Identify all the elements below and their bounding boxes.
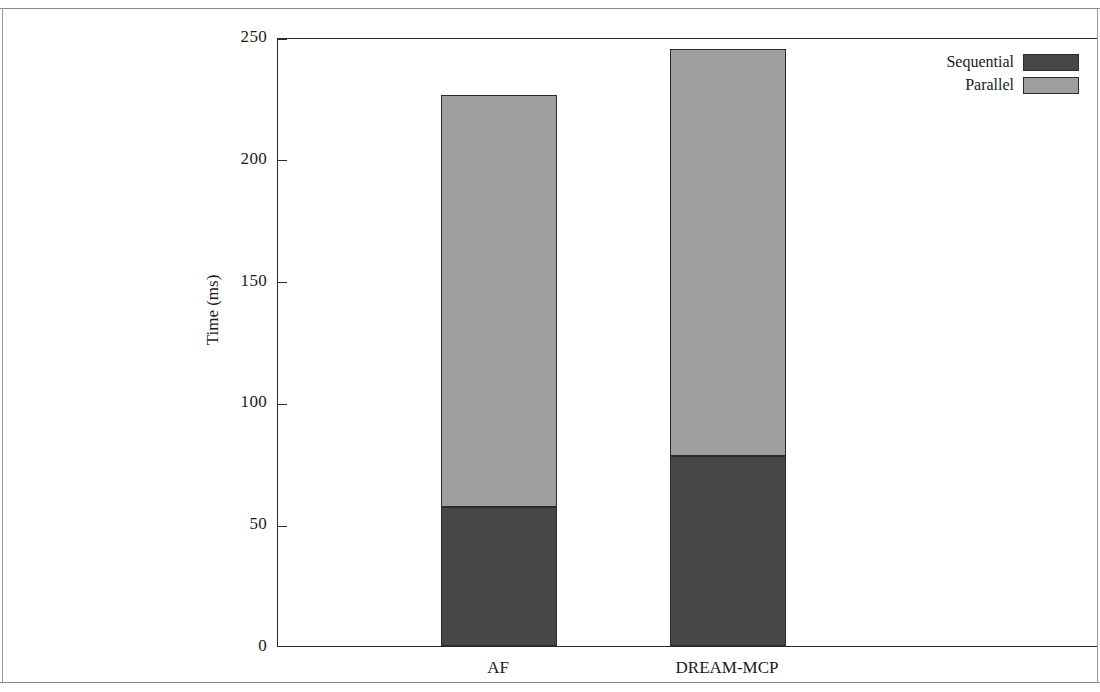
legend-swatch-parallel bbox=[1023, 77, 1079, 94]
y-axis-tick-labels: 250200150100500 bbox=[215, 0, 267, 692]
legend-swatch-sequential bbox=[1023, 54, 1079, 71]
bar-stack[interactable] bbox=[670, 37, 786, 646]
page-rule-bottom bbox=[0, 682, 1100, 683]
y-axis-tick bbox=[278, 160, 287, 161]
y-axis-tick-label: 50 bbox=[249, 514, 267, 534]
bar-segment-parallel[interactable] bbox=[441, 95, 557, 507]
y-axis-tick-label: 0 bbox=[258, 636, 267, 656]
page-edge-right bbox=[1097, 8, 1098, 683]
plot-area: Sequential Parallel bbox=[277, 38, 1097, 647]
bar-segment-sequential[interactable] bbox=[441, 507, 557, 646]
bar-stack[interactable] bbox=[441, 37, 557, 646]
y-axis-tick-label: 150 bbox=[241, 271, 267, 291]
y-axis-tick bbox=[278, 38, 287, 39]
y-axis-tick-label: 200 bbox=[241, 149, 267, 169]
y-axis-tick bbox=[278, 404, 287, 405]
legend-item-label: Sequential bbox=[946, 53, 1014, 71]
bar-segment-parallel[interactable] bbox=[670, 49, 786, 456]
figure-container: Time (ms) 250200150100500 Sequential Par… bbox=[0, 0, 1100, 692]
x-axis-tick-label: DREAM-MCP bbox=[607, 658, 847, 678]
page-rule-top bbox=[0, 8, 1100, 9]
x-axis-tick-label: AF bbox=[378, 658, 618, 678]
y-axis-tick-label: 250 bbox=[241, 27, 267, 47]
y-axis-tick-label: 100 bbox=[241, 392, 267, 412]
page-edge-left bbox=[2, 8, 3, 683]
y-axis-tick bbox=[278, 526, 287, 527]
bar-segment-sequential[interactable] bbox=[670, 456, 786, 646]
legend-item-label: Parallel bbox=[965, 76, 1014, 94]
y-axis-tick bbox=[278, 282, 287, 283]
legend-item[interactable]: Parallel bbox=[965, 76, 1079, 94]
legend-item[interactable]: Sequential bbox=[946, 53, 1079, 71]
chart-legend: Sequential Parallel bbox=[946, 53, 1079, 94]
